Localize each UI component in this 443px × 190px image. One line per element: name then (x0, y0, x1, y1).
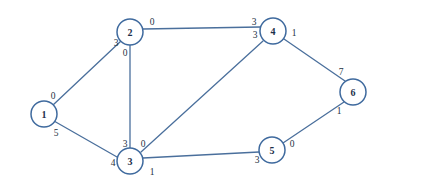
nodes-layer: 123456 (31, 18, 366, 174)
edge-weight-label-e-1-3-near-3: 4 (111, 158, 116, 168)
graph-node-2[interactable]: 2 (117, 19, 143, 45)
edge-weight-label-e-1-2-near-2: 3 (114, 38, 119, 48)
graph-node-3[interactable]: 3 (117, 148, 143, 174)
graph-diagram-canvas: 123456 0354030303131701 (0, 0, 443, 190)
graph-diagram: 123456 0354030303131701 (0, 0, 443, 190)
edges-layer (53, 27, 345, 158)
graph-node-label-1: 1 (42, 109, 47, 120)
edge-weight-label-e-4-6-near-6: 7 (339, 67, 344, 77)
graph-node-label-4: 4 (271, 26, 276, 37)
edge-weight-label-e-3-4-near-4: 3 (253, 30, 258, 40)
graph-node-label-3: 3 (128, 156, 133, 167)
graph-node-4[interactable]: 4 (260, 18, 286, 44)
graph-node-1[interactable]: 1 (31, 101, 57, 127)
edge-weight-label-e-2-4-near-4: 3 (252, 17, 257, 27)
edge-weight-label-e-5-6-near-5: 0 (290, 139, 295, 149)
graph-edge-3-4 (141, 41, 263, 152)
edge-weight-label-e-1-2-near-1: 0 (51, 91, 56, 101)
graph-edge-5-6 (283, 102, 344, 143)
graph-node-label-6: 6 (351, 87, 356, 98)
edge-weight-label-e-3-5-near-5: 3 (255, 155, 260, 165)
edge-weight-label-e-1-3-near-1: 5 (54, 128, 59, 138)
edge-weight-label-e-4-6-near-4: 1 (292, 28, 297, 38)
graph-node-label-2: 2 (128, 27, 133, 38)
edge-weight-label-e-3-4-near-3: 0 (141, 139, 146, 149)
edge-weight-label-e-2-3-near-2: 0 (123, 48, 128, 58)
edge-weight-label-e-5-6-near-6: 1 (337, 106, 342, 116)
graph-edge-1-3 (54, 121, 117, 157)
graph-node-5[interactable]: 5 (259, 137, 285, 163)
graph-edge-2-4 (143, 27, 260, 29)
graph-edge-3-5 (143, 152, 259, 158)
graph-node-6[interactable]: 6 (340, 79, 366, 105)
edge-weight-label-e-2-4-near-2: 0 (150, 17, 155, 27)
edge-weight-label-e-2-3-near-3: 3 (123, 139, 128, 149)
graph-edge-4-6 (284, 39, 345, 81)
graph-edge-1-2 (53, 41, 121, 105)
edge-labels-layer: 0354030303131701 (51, 17, 344, 177)
edge-weight-label-e-3-5-near-3: 1 (150, 167, 155, 177)
graph-node-label-5: 5 (270, 145, 275, 156)
